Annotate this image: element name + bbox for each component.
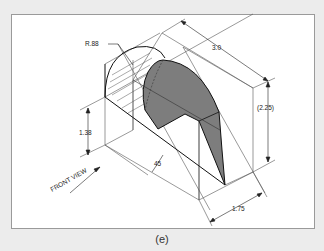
angle-label: 45 [154, 160, 162, 167]
length-label: 3.0 [212, 44, 221, 51]
figure-caption: (e) [0, 233, 324, 245]
isometric-drawing: R.88 3.0 (2.25) 1.38 45 1.75 FRONT VIEW [0, 0, 324, 251]
radius-label: R.88 [85, 40, 99, 47]
height-label: (2.25) [257, 104, 274, 112]
front-view-label: FRONT VIEW [49, 166, 88, 193]
construction-lines [80, 14, 275, 226]
depth-label: 1.75 [232, 205, 245, 212]
base-height-label: 1.38 [79, 129, 92, 136]
